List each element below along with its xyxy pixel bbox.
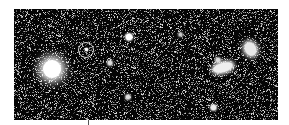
star-small-3 (126, 95, 130, 99)
target-circle-marker (78, 42, 94, 58)
star-small-6 (179, 33, 182, 36)
star-small-2 (108, 61, 112, 65)
astronomical-image (14, 9, 278, 120)
star-small-5 (211, 105, 216, 110)
star-small-4 (216, 58, 220, 62)
tick-mark (88, 120, 89, 125)
bright-star (43, 60, 61, 78)
star-small-1 (126, 34, 132, 40)
